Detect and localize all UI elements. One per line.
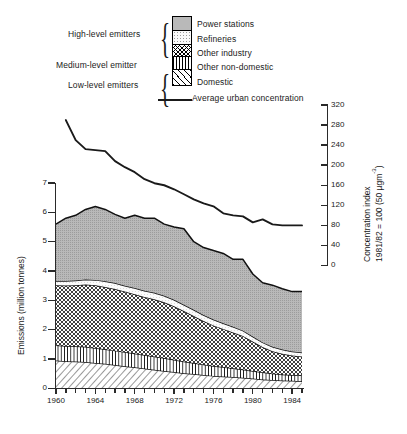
- right-tick: [321, 185, 328, 186]
- bottom-tick: [232, 389, 233, 393]
- left-tick-label: 5: [39, 236, 47, 245]
- bottom-tick: [164, 389, 165, 393]
- left-tick-label: 3: [39, 295, 47, 304]
- left-tick: [48, 300, 55, 301]
- bottom-tick: [193, 389, 194, 393]
- bottom-tick: [75, 389, 76, 393]
- bottom-tick: [203, 389, 204, 393]
- right-tick-label: 40: [331, 240, 340, 249]
- bottom-tick: [134, 389, 135, 394]
- right-tick: [321, 144, 328, 145]
- chart-root: High-level emitters Medium-level emitter…: [0, 0, 407, 434]
- left-axis-title: Emissions (million tonnes): [16, 256, 26, 355]
- bottom-tick: [242, 389, 243, 393]
- left-tick: [48, 212, 55, 213]
- right-tick-label: 0: [331, 260, 335, 269]
- bottom-tick: [114, 389, 115, 393]
- bottom-tick: [154, 389, 155, 393]
- bottom-tick-label: 1960: [45, 396, 67, 405]
- bottom-tick: [65, 389, 66, 393]
- bottom-tick: [223, 389, 224, 393]
- right-tick: [321, 164, 328, 165]
- bottom-tick: [124, 389, 125, 393]
- right-tick: [321, 245, 328, 246]
- bottom-tick: [272, 389, 273, 393]
- right-axis-title-exponent: -3: [371, 168, 377, 173]
- right-tick-label: 320: [331, 100, 344, 109]
- bottom-tick-label: 1976: [202, 396, 224, 405]
- left-tick-label: 0: [39, 383, 47, 392]
- right-axis-title-second-line: 1981/82 = 100 (50 µgm-3): [368, 166, 386, 263]
- bottom-tick-label: 1980: [242, 396, 264, 405]
- left-tick: [48, 270, 55, 271]
- bottom-tick-label: 1968: [124, 396, 146, 405]
- right-tick: [321, 104, 328, 105]
- bottom-tick: [183, 389, 184, 393]
- right-tick-label: 80: [331, 220, 340, 229]
- right-tick: [321, 124, 328, 125]
- right-tick-label: 280: [331, 120, 344, 129]
- right-axis-title-paren: ): [374, 166, 384, 169]
- bottom-axis-line: [55, 388, 304, 389]
- right-tick: [321, 205, 328, 206]
- left-tick: [48, 329, 55, 330]
- bottom-tick-label: 1964: [84, 396, 106, 405]
- left-tick-label: 7: [39, 178, 47, 187]
- bottom-tick: [252, 389, 253, 394]
- right-tick: [321, 265, 328, 266]
- bottom-tick-label: 1972: [163, 396, 185, 405]
- bottom-tick: [95, 389, 96, 394]
- bottom-tick: [262, 389, 263, 393]
- bottom-tick: [105, 389, 106, 393]
- right-tick-label: 120: [331, 200, 344, 209]
- left-tick-label: 1: [39, 354, 47, 363]
- bottom-tick: [85, 389, 86, 393]
- plot-area: [0, 0, 407, 434]
- right-tick-label: 240: [331, 140, 344, 149]
- left-tick: [48, 358, 55, 359]
- left-axis-line: [55, 183, 56, 389]
- bottom-tick: [144, 389, 145, 393]
- bottom-tick: [173, 389, 174, 394]
- left-tick: [48, 388, 55, 389]
- left-tick-label: 2: [39, 324, 47, 333]
- right-tick-label: 160: [331, 180, 344, 189]
- bottom-tick: [55, 389, 56, 394]
- bottom-tick-label: 1984: [281, 396, 303, 405]
- left-tick-label: 4: [39, 266, 47, 275]
- bottom-tick: [213, 389, 214, 394]
- left-tick-label: 6: [39, 207, 47, 216]
- right-tick-label: 200: [331, 160, 344, 169]
- left-tick: [48, 182, 55, 183]
- right-tick: [321, 225, 328, 226]
- bottom-tick: [291, 389, 292, 394]
- bottom-tick: [301, 389, 302, 393]
- right-axis-title-line2: 1981/82 = 100 (50 µgm: [374, 174, 384, 262]
- left-tick: [48, 241, 55, 242]
- bottom-tick: [282, 389, 283, 393]
